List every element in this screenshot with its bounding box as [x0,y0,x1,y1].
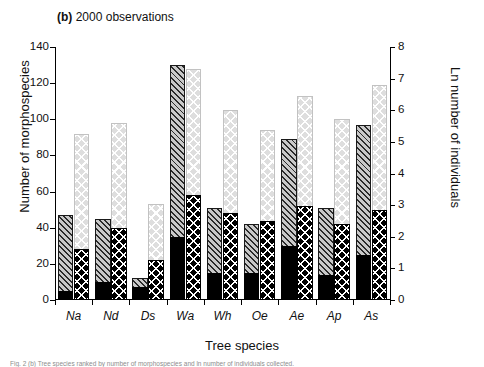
bar-morphospecies-Oe[interactable] [244,224,260,300]
right-tick-label-1: 1 [398,262,404,274]
panel-title-text: 2000 observations [76,10,174,24]
bar-morphospecies-Ae-base [281,246,297,300]
bar-individuals-Oe[interactable] [260,130,276,300]
x-tick-Ds [167,300,168,305]
plot-area: 020406080100120140 012345678 NaNdDsWaWhO… [55,47,390,300]
bar-group-As [356,47,388,300]
right-tick-2 [390,237,395,238]
panel-title: (b) 2000 observations [57,10,174,24]
right-tick-5 [390,142,395,143]
x-tick-Wh [241,300,242,305]
bar-individuals-Wh-base [223,213,239,300]
bar-group-Wa [170,47,202,300]
bar-morphospecies-Na[interactable] [58,215,74,300]
bar-morphospecies-Wh[interactable] [207,208,223,300]
bar-individuals-Ds-base [148,260,164,300]
x-tick-Nd [129,300,130,305]
bar-morphospecies-As-base [356,255,372,300]
bar-group-Oe [244,47,276,300]
x-tick-Ae [316,300,317,305]
left-tick-label-80: 80 [36,149,49,161]
bar-morphospecies-Na-base [58,291,74,300]
bar-individuals-Wa-base [186,195,202,300]
bar-morphospecies-Wh-base [207,273,223,300]
right-tick-label-2: 2 [398,231,404,243]
right-tick-label-3: 3 [398,199,404,211]
bar-individuals-Ap[interactable] [334,119,350,300]
figure: (b) 2000 observations Number of morphosp… [0,0,484,367]
bar-individuals-Nd[interactable] [111,123,127,300]
left-tick-60 [50,192,55,193]
x-tick-Wa [204,300,205,305]
bar-morphospecies-Wa[interactable] [170,65,186,300]
left-tick-120 [50,83,55,84]
right-tick-label-4: 4 [398,168,404,180]
bar-group-Ap [318,47,350,300]
bar-morphospecies-Nd-base [95,282,111,300]
x-tick-Na [92,300,93,305]
left-tick-label-20: 20 [36,258,49,270]
bar-individuals-Wh[interactable] [223,110,239,300]
x-tick-As [390,300,391,305]
left-tick-140 [50,47,55,48]
bar-morphospecies-Ds[interactable] [132,278,148,300]
right-tick-1 [390,268,395,269]
bar-individuals-Na[interactable] [74,134,90,300]
y-axis-label-left: Number of morphospecies [17,27,32,247]
bar-group-Nd [95,47,127,300]
right-tick-label-7: 7 [398,73,404,85]
bar-individuals-Oe-base [260,221,276,301]
bar-individuals-Nd-base [111,228,127,300]
y-axis-label-right: Ln number of individuals [448,23,463,253]
bar-group-Ds [132,47,164,300]
bar-morphospecies-Ae[interactable] [281,139,297,300]
bar-morphospecies-Ap-base [318,275,334,300]
left-tick-label-100: 100 [30,113,49,125]
right-tick-label-5: 5 [398,136,404,148]
left-tick-label-120: 120 [30,77,49,89]
left-tick-40 [50,228,55,229]
right-tick-8 [390,47,395,48]
right-tick-label-0: 0 [398,294,404,306]
bar-morphospecies-As[interactable] [356,125,372,300]
bar-group-Ae [281,47,313,300]
x-tick-origin [55,300,56,305]
left-tick-label-140: 140 [30,41,49,53]
bar-morphospecies-Wa-base [170,237,186,300]
bar-individuals-Ap-base [334,224,350,300]
x-tick-Oe [278,300,279,305]
left-tick-100 [50,119,55,120]
bar-individuals-Ae-base [297,206,313,300]
bar-individuals-As-base [372,210,388,300]
right-tick-3 [390,205,395,206]
bar-individuals-As[interactable] [372,85,388,300]
x-tick-label-As: As [346,309,396,323]
bar-morphospecies-Nd[interactable] [95,219,111,300]
right-tick-6 [390,110,395,111]
bar-morphospecies-Na-upper [58,215,74,300]
bar-morphospecies-Ap[interactable] [318,208,334,300]
bar-group-Wh [207,47,239,300]
left-tick-label-0: 0 [43,294,49,306]
x-tick-Ap [353,300,354,305]
bar-morphospecies-Oe-base [244,273,260,300]
bar-individuals-Ds[interactable] [148,204,164,300]
right-tick-label-6: 6 [398,104,404,116]
bar-individuals-Ae[interactable] [297,96,313,300]
right-tick-label-8: 8 [398,41,404,53]
x-axis-label: Tree species [0,338,484,353]
bar-individuals-Na-base [74,249,90,300]
right-tick-4 [390,174,395,175]
bar-individuals-Wa[interactable] [186,69,202,300]
bar-group-Na [58,47,90,300]
left-tick-label-60: 60 [36,186,49,198]
left-tick-label-40: 40 [36,222,49,234]
bar-morphospecies-Ds-base [132,287,148,300]
left-tick-20 [50,264,55,265]
right-tick-7 [390,79,395,80]
panel-letter: (b) [57,10,72,24]
left-tick-80 [50,155,55,156]
figure-caption: Fig. 2 (b) Tree species ranked by number… [10,360,480,367]
